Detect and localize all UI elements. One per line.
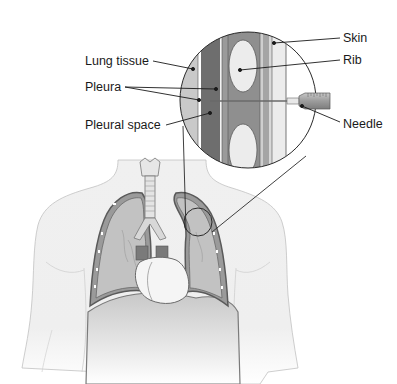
rib-upper <box>229 40 257 92</box>
diaphragm <box>86 293 240 384</box>
magnified-inset <box>176 30 330 176</box>
label-skin: Skin <box>343 31 367 45</box>
illustration <box>0 0 397 384</box>
thoracentesis-diagram: Lung tissue Pleura Pleural space Skin Ri… <box>0 0 397 384</box>
label-rib: Rib <box>343 53 362 67</box>
leader-skin <box>274 38 340 43</box>
leader-lung-tissue <box>153 61 193 69</box>
label-lung-tissue: Lung tissue <box>85 54 149 68</box>
label-pleural-space: Pleural space <box>85 118 161 132</box>
label-needle: Needle <box>343 117 383 131</box>
label-pleura: Pleura <box>85 80 121 94</box>
